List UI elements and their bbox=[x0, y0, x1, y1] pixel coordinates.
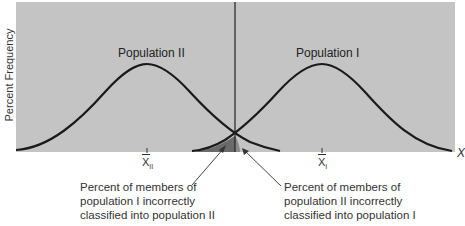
mean-i-label: XI bbox=[318, 154, 327, 170]
right-annotation-line-2: population II incorrectly bbox=[284, 194, 416, 208]
right-annotation-line-1: Percent of members of bbox=[284, 180, 416, 194]
left-annotation-line-1: Percent of members of bbox=[80, 180, 215, 194]
mean-ii-subscript: II bbox=[149, 163, 153, 170]
right-annotation-arrow bbox=[244, 150, 281, 186]
right-annotation-line-3: classified into population I bbox=[284, 208, 416, 222]
population-i-label: Population I bbox=[296, 46, 359, 60]
left-annotation-line-3: classified into population II bbox=[80, 208, 215, 222]
mean-i-subscript: I bbox=[325, 163, 327, 170]
right-annotation: Percent of members of population II inco… bbox=[284, 180, 416, 222]
mean-bar-icon bbox=[318, 154, 326, 155]
y-axis-label: Percent Frequency bbox=[3, 25, 17, 125]
mean-ii-label: XII bbox=[142, 154, 153, 170]
population-ii-label: Population II bbox=[118, 46, 185, 60]
x-axis-label: X bbox=[457, 146, 465, 160]
mean-bar-icon bbox=[142, 154, 150, 155]
left-annotation-line-2: population I incorrectly bbox=[80, 194, 215, 208]
left-annotation: Percent of members of population I incor… bbox=[80, 180, 215, 222]
